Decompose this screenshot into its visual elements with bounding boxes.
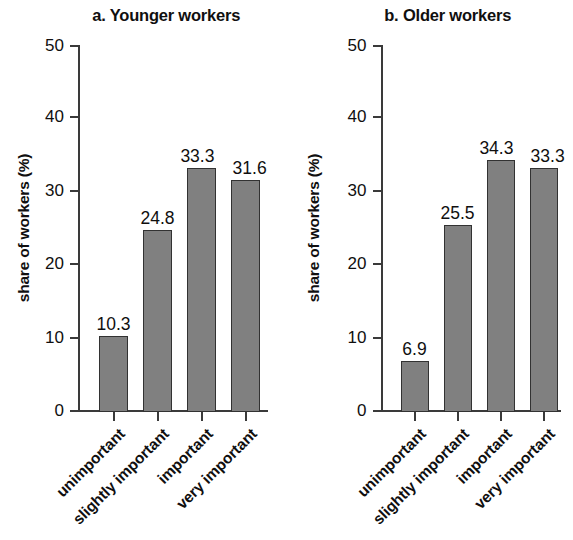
bar-value-label: 33.3 [531, 146, 565, 167]
plot-area: 0 10 20 30 40 50 10.3 [78, 45, 268, 412]
panel-title: a. Younger workers [0, 6, 287, 25]
y-tick-40: 40 [373, 116, 381, 118]
y-axis-label: share of workers (%) [15, 118, 33, 338]
y-tick-20: 20 [70, 263, 78, 265]
y-tick-label: 50 [348, 36, 367, 56]
x-tick [500, 412, 502, 421]
y-tick-label: 30 [348, 181, 367, 201]
y-tick-50: 50 [373, 45, 381, 47]
y-tick-label: 20 [45, 254, 64, 274]
y-tick-label: 40 [45, 107, 64, 127]
x-category-text: very important [173, 425, 261, 513]
y-tick-30: 30 [373, 190, 381, 192]
bar-value-label: 25.5 [440, 203, 474, 224]
y-tick-10: 10 [70, 337, 78, 339]
y-axis-label: share of workers (%) [305, 118, 323, 338]
y-tick-20: 20 [373, 263, 381, 265]
chart-panel-younger-workers: a. Younger workers share of workers (%) … [0, 0, 287, 540]
bar-value-label: 6.9 [402, 339, 426, 360]
bar-value-label: 33.3 [180, 146, 214, 167]
y-tick-label: 10 [45, 328, 64, 348]
bar-value-label: 34.3 [479, 138, 513, 159]
y-tick-label: 40 [348, 107, 367, 127]
x-tick [543, 412, 545, 421]
plot-area: 0 10 20 30 40 50 6.9 [381, 45, 571, 412]
bar: 10.3 [99, 336, 128, 412]
chart-panel-older-workers: b. Older workers share of workers (%) 0 … [287, 0, 573, 540]
bar-value-label: 31.6 [233, 158, 267, 179]
y-tick-label: 20 [348, 254, 367, 274]
y-axis-line [381, 45, 383, 412]
y-tick-label: 10 [348, 328, 367, 348]
x-tick [201, 412, 203, 421]
bar-value-label: 24.8 [140, 208, 174, 229]
x-tick [157, 412, 159, 421]
x-tick [457, 412, 459, 421]
x-tick [113, 412, 115, 421]
y-tick-0: 0 [373, 410, 381, 412]
y-tick-0: 0 [70, 410, 78, 412]
y-tick-label: 30 [45, 181, 64, 201]
y-tick-50: 50 [70, 45, 78, 47]
bar-value-label: 10.3 [96, 314, 130, 335]
y-tick-10: 10 [373, 337, 381, 339]
y-tick-30: 30 [70, 190, 78, 192]
y-tick-label: 0 [55, 401, 64, 421]
bar: 6.9 [401, 361, 429, 412]
y-axis-line [78, 45, 80, 412]
y-tick-label: 50 [45, 36, 64, 56]
x-tick [414, 412, 416, 421]
figure: a. Younger workers share of workers (%) … [0, 0, 573, 540]
y-tick-label: 0 [357, 401, 366, 421]
x-tick [245, 412, 247, 421]
y-tick-40: 40 [70, 116, 78, 118]
panel-title: b. Older workers [287, 6, 573, 25]
